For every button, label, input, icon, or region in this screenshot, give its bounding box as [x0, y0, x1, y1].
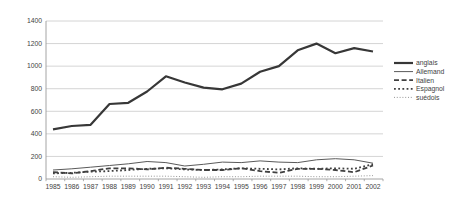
legend: anglaisAllemandItalienEspagnolsuédois — [394, 59, 445, 100]
series-line-suédois — [53, 176, 373, 178]
x-axis-tick-label: 2000 — [328, 183, 343, 190]
x-axis-tick-label: 1990 — [140, 183, 155, 190]
y-axis-tick-label: 1400 — [27, 17, 42, 24]
legend-item-anglais: anglais — [394, 59, 438, 67]
series-line-Allemand — [53, 159, 373, 170]
legend-item-Espagnol: Espagnol — [394, 85, 445, 93]
x-axis-tick-label: 1995 — [234, 183, 249, 190]
legend-label: Espagnol — [416, 85, 445, 93]
legend-label: Allemand — [416, 68, 445, 75]
series-line-anglais — [53, 44, 373, 130]
y-axis-tick-label: 400 — [31, 130, 43, 137]
x-axis-tick-label: 1989 — [121, 183, 136, 190]
legend-item-suédois: suédois — [394, 94, 440, 101]
line-chart-svg: 0200400600800100012001400198519861987198… — [0, 0, 459, 203]
legend-item-Italien: Italien — [394, 77, 434, 84]
x-axis-tick-label: 1998 — [290, 183, 305, 190]
legend-label: Italien — [416, 77, 434, 84]
x-axis-tick-label: 1992 — [177, 183, 192, 190]
x-axis-tick-label: 1994 — [215, 183, 230, 190]
y-axis-tick-label: 1200 — [27, 40, 42, 47]
x-axis-tick-label: 1996 — [252, 183, 267, 190]
x-axis-tick-label: 1997 — [271, 183, 286, 190]
y-axis-tick-label: 600 — [31, 108, 43, 115]
x-axis-tick-label: 1987 — [83, 183, 98, 190]
chart: 0200400600800100012001400198519861987198… — [0, 0, 459, 203]
x-axis-tick-label: 1993 — [196, 183, 211, 190]
x-axis-tick-label: 1985 — [45, 183, 60, 190]
x-axis-labels: 1985198619871988198919901991199219931994… — [45, 179, 383, 190]
series-lines — [53, 44, 373, 178]
x-axis-tick-label: 1991 — [158, 183, 173, 190]
legend-item-Allemand: Allemand — [394, 68, 445, 75]
y-axis-labels: 0200400600800100012001400 — [27, 17, 42, 182]
y-axis-tick-label: 1000 — [27, 62, 42, 69]
x-axis-tick-label: 1988 — [102, 183, 117, 190]
x-axis-tick-label: 2001 — [347, 183, 362, 190]
legend-label: anglais — [416, 59, 438, 67]
x-axis-tick-label: 1999 — [309, 183, 324, 190]
x-axis-tick-label: 1986 — [64, 183, 79, 190]
y-axis-tick-label: 800 — [31, 85, 43, 92]
x-axis-tick-label: 2002 — [365, 183, 380, 190]
legend-label: suédois — [416, 94, 440, 101]
axes — [46, 21, 383, 179]
y-axis-tick-label: 0 — [38, 175, 42, 182]
y-axis-tick-label: 200 — [31, 153, 43, 160]
